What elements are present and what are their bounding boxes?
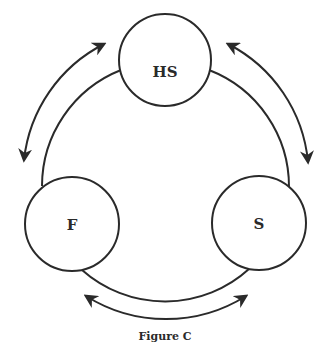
ring-arc-hs-f [42, 70, 121, 186]
arrow-hs-s [228, 44, 308, 162]
node-hs-label: HS [152, 63, 177, 81]
arrow-f-s [86, 296, 246, 319]
figure-caption: Figure C [138, 330, 191, 343]
ring-arc-f-s [82, 269, 249, 301]
arrow-hs-f [24, 44, 104, 160]
node-f-label: F [67, 216, 78, 234]
cycle-diagram [0, 0, 330, 353]
node-s-label: S [254, 215, 265, 233]
ring-arc-hs-s [209, 70, 289, 187]
node-hs-circle [119, 14, 211, 106]
